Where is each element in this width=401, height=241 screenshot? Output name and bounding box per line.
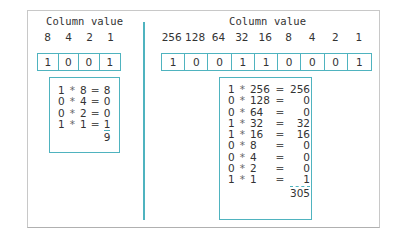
calc-result: 1: [290, 174, 310, 185]
calc-col-value: 128: [250, 95, 270, 106]
calc-row: 0 * 128 = 0: [228, 95, 310, 106]
multiply-sign: *: [235, 95, 250, 106]
calc-bit: 0: [228, 95, 235, 106]
left-col-value: 8: [37, 31, 58, 43]
equals-sign: =: [87, 96, 104, 107]
right-col-value: 8: [277, 31, 300, 43]
calc-bit: 1: [58, 119, 65, 130]
right-col-value: 16: [254, 31, 277, 43]
equals-sign: =: [270, 95, 290, 106]
left-bit-cell: 1: [100, 54, 120, 70]
multiply-sign: *: [65, 119, 80, 130]
equals-sign: =: [87, 119, 104, 130]
calc-total-row: 9: [58, 130, 110, 143]
calc-row: 1 * 1 = 1: [228, 174, 310, 185]
right-col-value: 256: [160, 31, 183, 43]
right-col-value: 128: [183, 31, 206, 43]
right-column-values: 256 128 64 32 16 8 4 2 1: [160, 31, 371, 43]
right-bit-cell: 1: [232, 54, 255, 70]
right-calculation-box: 1 * 256 = 256 0 * 128 = 0 0 * 64 = 0 1 *…: [219, 77, 312, 220]
calc-row: 0 * 4 = 0: [58, 96, 110, 107]
panel-divider: [143, 22, 145, 220]
calc-col-value: 1: [80, 119, 87, 130]
calc-result: 0: [104, 96, 111, 107]
left-col-value: 2: [79, 31, 100, 43]
left-col-value: 4: [58, 31, 79, 43]
right-calculation-table: 1 * 256 = 256 0 * 128 = 0 0 * 64 = 0 1 *…: [228, 84, 310, 199]
calc-bit: 0: [58, 96, 65, 107]
calc-row: 1 * 1 = 1: [58, 119, 110, 130]
right-bit-cell: 1: [162, 54, 185, 70]
calc-total: 305: [290, 186, 310, 199]
calc-result: 1: [104, 119, 111, 130]
left-column-values: 8 4 2 1: [37, 31, 121, 43]
right-bit-cell: 0: [278, 54, 301, 70]
right-bit-cell: 0: [301, 54, 324, 70]
calc-col-value: 1: [250, 174, 270, 185]
right-col-value: 4: [300, 31, 323, 43]
left-bit-row: 1 0 0 1: [37, 53, 121, 71]
calc-total-row: 305: [228, 186, 310, 199]
left-bit-cell: 0: [59, 54, 80, 70]
right-bit-cell: 0: [325, 54, 348, 70]
left-calculation-table: 1 * 8 = 8 0 * 4 = 0 0 * 2 = 0 1 * 1 = 1: [58, 85, 110, 143]
right-bit-row: 1 0 0 1 1 0 0 0 1: [161, 53, 372, 71]
right-column-value-title: Column value: [229, 15, 306, 27]
left-column-value-title: Column value: [46, 15, 123, 27]
calc-col-value: 4: [80, 96, 87, 107]
right-bit-cell: 0: [185, 54, 208, 70]
right-col-value: 2: [324, 31, 347, 43]
right-col-value: 64: [207, 31, 230, 43]
multiply-sign: *: [235, 174, 250, 185]
right-bit-cell: 1: [255, 54, 278, 70]
calc-bit: 1: [228, 174, 235, 185]
right-bit-cell: 1: [348, 54, 371, 70]
left-col-value: 1: [100, 31, 121, 43]
left-calculation-box: 1 * 8 = 8 0 * 4 = 0 0 * 2 = 0 1 * 1 = 1: [49, 77, 120, 153]
calc-total: 9: [104, 130, 111, 143]
left-bit-cell: 1: [38, 54, 59, 70]
right-col-value: 32: [230, 31, 253, 43]
calc-result: 0: [290, 95, 310, 106]
left-bit-cell: 0: [79, 54, 100, 70]
right-col-value: 1: [347, 31, 370, 43]
right-bit-cell: 0: [208, 54, 231, 70]
multiply-sign: *: [65, 96, 80, 107]
equals-sign: =: [270, 174, 290, 185]
